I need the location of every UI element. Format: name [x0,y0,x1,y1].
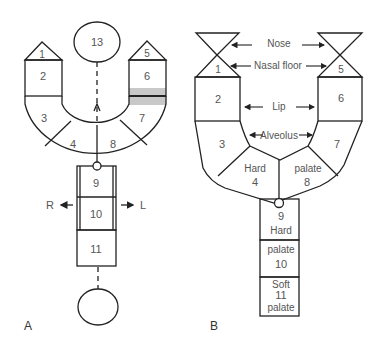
hard-col-label: Hard [270,225,292,236]
panel-b: 1 5 Nose Nasal floor Lip Alveolus 2 6 3 … [195,33,362,333]
segment-5-label: 5 [338,64,344,75]
nose-left [196,33,239,55]
incisive-foramen-dot [93,162,101,170]
segment-11-label: 11 [275,289,286,301]
segment-8-label: 8 [110,138,116,150]
segment-4-label: 4 [252,176,258,188]
segment-3-label: 3 [219,138,225,150]
segment-13-label: 13 [91,36,103,48]
segment-11-label: 11 [90,243,101,255]
segment-9-label: 9 [93,177,99,189]
segment-7-label: 7 [334,138,340,150]
segment-2-label: 2 [215,93,221,105]
segment-5-label: 5 [144,48,150,59]
segment-10-label: 10 [90,208,102,220]
column-9-10 [77,166,116,230]
bottom-oval [78,289,118,325]
nasal-floor-label: Nasal floor [254,60,302,71]
segment-9-label: 9 [278,210,284,222]
nose-right [318,33,362,55]
segment-10-label: 10 [275,258,287,270]
segment-6-label: 6 [338,92,344,104]
segment-7-label: 7 [139,112,145,124]
lip-label: Lip [272,101,286,112]
nose-label: Nose [267,38,291,49]
alveolus-label: Alveolus [260,130,298,141]
incisive-foramen-dot [275,199,284,208]
segment-8-label: 8 [304,176,310,188]
segment-2-label: 2 [40,70,46,82]
palate-soft-label: palate [267,302,295,313]
segment-3-label: 3 [41,112,47,124]
palate-label: palate [294,163,322,174]
direction-l-label: L [140,199,146,211]
panel-a-label: A [24,319,32,333]
cleft-diagram: 13 1 2 5 6 3 4 8 7 9 10 11 [0,0,382,353]
panel-a: 13 1 2 5 6 3 4 8 7 9 10 11 [24,22,166,333]
segment-1-label: 1 [215,64,221,75]
hard-label: Hard [244,163,266,174]
arch-inner [62,96,129,122]
segment-1-label: 1 [39,49,45,60]
direction-r-label: R [46,199,54,211]
segment-4-label: 4 [70,138,76,150]
segment-6-label: 6 [144,70,150,82]
palate-col-label: palate [267,244,295,255]
panel-b-label: B [210,319,218,333]
